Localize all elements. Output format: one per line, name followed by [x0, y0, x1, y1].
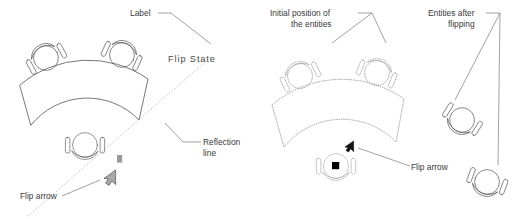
- initial-chair-right: [354, 52, 400, 92]
- chair-entity-right: [99, 34, 146, 74]
- flip-state-text: Flip State: [168, 54, 216, 64]
- reflection-line-label-1: Reflection: [203, 137, 241, 147]
- reflection-line-label-2: line: [203, 148, 216, 158]
- label-callout-text: Label: [130, 8, 151, 18]
- entities-after-leader-b: [498, 13, 500, 165]
- right-panel-geometry: [272, 13, 510, 202]
- flip-arrow-leader-line-right: [358, 148, 410, 166]
- flip-arrow-label-left: Flip arrow: [20, 191, 58, 201]
- initial-position-label-2: the entities: [291, 19, 332, 29]
- left-panel-geometry: [20, 13, 212, 216]
- entities-after-label-2: flipping: [448, 19, 475, 29]
- diagram-canvas: Label Flip State Reflection line Flip ar…: [0, 0, 530, 219]
- flipped-chair-upper: [438, 99, 485, 143]
- initial-table-entity: [272, 79, 404, 147]
- initial-position-leader-a: [332, 13, 372, 43]
- left-panel-labels: Label Flip State Reflection line Flip ar…: [20, 8, 241, 201]
- initial-position-label-1: Initial position of: [270, 8, 331, 18]
- table-entity: [20, 60, 148, 125]
- flip-arrow-label-right: Flip arrow: [411, 162, 449, 172]
- grip-marker-icon[interactable]: [117, 155, 122, 163]
- flip-arrow-leader-line: [62, 180, 100, 196]
- initial-position-leader-b: [372, 13, 386, 43]
- right-panel-labels: Initial position of the entities Entitie…: [270, 8, 475, 172]
- chair-entity-left: [22, 36, 69, 78]
- flip-arrow-cursor-icon[interactable]: [104, 170, 116, 185]
- initial-chair-left: [276, 54, 323, 95]
- label-leader-line: [158, 13, 211, 44]
- reflection-leader-line: [165, 123, 201, 142]
- grip-marker-black-icon[interactable]: [332, 162, 339, 169]
- diagram-root: Label Flip State Reflection line Flip ar…: [0, 0, 530, 219]
- flip-arrow-cursor-black-icon[interactable]: [345, 141, 354, 152]
- entities-after-label-1: Entities after: [428, 8, 475, 18]
- chair-entity-bottom: [65, 133, 104, 160]
- flipped-chair-lower: [464, 164, 510, 203]
